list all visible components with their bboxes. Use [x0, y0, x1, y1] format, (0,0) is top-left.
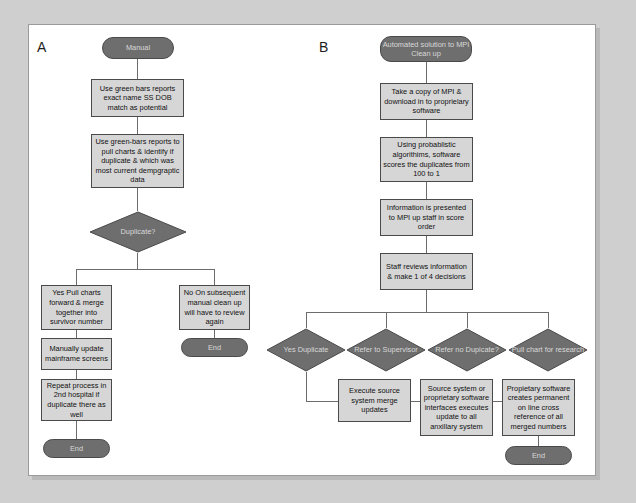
- panel-a-start-terminator[interactable]: Manual: [102, 37, 174, 59]
- panel-a-step-1[interactable]: Use green bars reports exact name SS DOB…: [91, 79, 184, 117]
- panel-b-step-4[interactable]: Staff reviews information & make 1 of 4 …: [380, 253, 473, 290]
- panel-b-step-1[interactable]: Take a copy of MPI & download in to prop…: [380, 83, 473, 120]
- connector: [76, 269, 214, 270]
- connector: [306, 312, 548, 313]
- connector: [137, 188, 138, 211]
- panel-b-step-3[interactable]: Information is presented to MPI up staff…: [380, 199, 473, 236]
- connector: [214, 330, 215, 338]
- connector: [426, 290, 427, 312]
- connector: [76, 370, 77, 379]
- panel-b-decision-1[interactable]: Yes Duplicate: [266, 328, 346, 372]
- panel-b-outcome-1[interactable]: Execute source system merge updates: [338, 379, 411, 422]
- panel-a-yes-step-1[interactable]: Yes Pull charts forward & merge together…: [41, 285, 112, 330]
- connector: [76, 330, 77, 338]
- panel-a-no-step[interactable]: No On subsequent manual clean up will ha…: [179, 285, 250, 330]
- panel-label-b: B: [319, 39, 329, 55]
- panel-b-decision-4[interactable]: Pull chart for research: [508, 328, 588, 372]
- connector: [426, 236, 427, 253]
- panel-label-a: A: [37, 39, 47, 55]
- connector: [411, 401, 420, 402]
- connector: [386, 312, 387, 328]
- panel-a-decision-duplicate[interactable]: Duplicate?: [89, 211, 187, 253]
- connector: [426, 62, 427, 83]
- connector: [306, 312, 307, 328]
- connector: [76, 421, 77, 439]
- connector: [426, 182, 427, 199]
- panel-b-end-terminator[interactable]: End: [505, 446, 572, 465]
- connector: [214, 269, 215, 285]
- connector: [76, 269, 77, 285]
- panel-a-step-2[interactable]: Use green-bars reports to pull charts & …: [91, 134, 184, 188]
- panel-b-decision-3[interactable]: Refer no Dupicate?: [427, 328, 507, 372]
- panel-a-yes-step-2[interactable]: Manually update mainframe screens: [41, 338, 112, 370]
- connector: [137, 59, 138, 79]
- panel-a-yes-end-terminator[interactable]: End: [43, 439, 110, 458]
- panel-b-start-terminator[interactable]: Automated solution to MPI Clean up: [380, 36, 472, 62]
- connector: [493, 401, 502, 402]
- figure-root: A Manual Use green bars reports exact na…: [0, 0, 636, 503]
- connector: [548, 312, 549, 328]
- panel-a-no-end-terminator[interactable]: End: [181, 338, 248, 357]
- panel-b-outcome-3[interactable]: Propietary software creates permanent on…: [502, 379, 575, 436]
- connector: [306, 401, 338, 402]
- panel-b-step-2[interactable]: Using probablistic algorithims, software…: [380, 137, 473, 182]
- connector: [137, 117, 138, 134]
- connector: [137, 253, 138, 269]
- panel-a-yes-step-3[interactable]: Repeat process in 2nd hospital if duplic…: [41, 379, 112, 421]
- connector: [538, 436, 539, 446]
- panel-b-decision-2[interactable]: Refer to Supervisor: [346, 328, 426, 372]
- panel-b-outcome-2[interactable]: Source system or proprietary software in…: [420, 379, 493, 436]
- flowchart-canvas: A Manual Use green bars reports exact na…: [28, 24, 596, 476]
- connector: [467, 312, 468, 328]
- connector: [306, 372, 307, 401]
- connector: [426, 120, 427, 137]
